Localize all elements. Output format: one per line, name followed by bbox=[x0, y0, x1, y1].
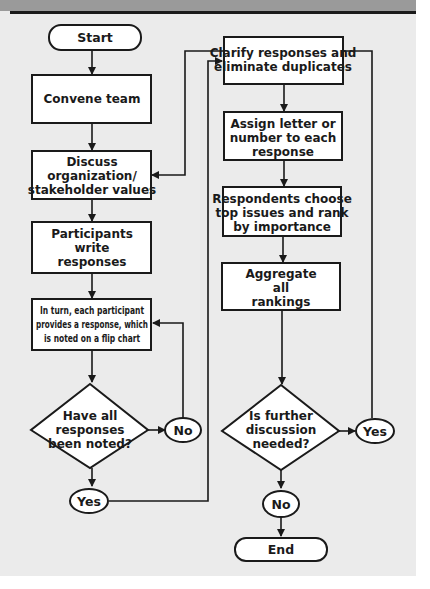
d1-no-label: No bbox=[173, 423, 192, 438]
rank-line-3: by importance bbox=[233, 220, 331, 234]
inturn-line-3: is noted on a flip chart bbox=[44, 332, 140, 345]
decision1-line-2: responses bbox=[56, 423, 125, 437]
node-convene: Convene team bbox=[32, 75, 151, 123]
decision1-line-1: Have all bbox=[63, 409, 118, 423]
node-end: End bbox=[235, 538, 327, 561]
clarify-line-1: Clarify responses and bbox=[210, 46, 357, 60]
discuss-line-2: organization/ bbox=[47, 169, 137, 183]
discuss-line-3: stakeholder values bbox=[28, 183, 156, 197]
node-aggregate: Aggregate all rankings bbox=[222, 263, 340, 310]
d1-yes-label: Yes bbox=[76, 494, 101, 509]
write-line-2: write bbox=[75, 241, 110, 255]
node-d2-yes: Yes bbox=[356, 419, 394, 443]
assign-line-1: Assign letter or bbox=[230, 117, 335, 131]
node-inturn: In turn, each participant provides a res… bbox=[32, 299, 151, 350]
inturn-line-1: In turn, each participant bbox=[40, 304, 144, 317]
d2-yes-label: Yes bbox=[362, 424, 387, 439]
node-rank: Respondents choose top issues and rank b… bbox=[212, 187, 352, 236]
assign-line-3: response bbox=[252, 145, 314, 159]
aggregate-line-3: rankings bbox=[252, 295, 311, 309]
rank-line-2: top issues and rank bbox=[215, 206, 349, 220]
edge-no-inturn bbox=[153, 323, 183, 418]
decision2-line-1: Is further bbox=[249, 409, 313, 423]
node-decision1: Have all responses been noted? bbox=[31, 384, 148, 468]
aggregate-line-2: all bbox=[273, 281, 289, 295]
node-decision2: Is further discussion needed? bbox=[222, 385, 339, 470]
node-assign: Assign letter or number to each response bbox=[224, 112, 342, 160]
start-label: Start bbox=[77, 30, 113, 45]
aggregate-line-1: Aggregate bbox=[245, 267, 316, 281]
node-clarify: Clarify responses and eliminate duplicat… bbox=[210, 37, 357, 84]
write-line-1: Participants bbox=[51, 227, 133, 241]
flowchart: Start Convene team Discuss organization/… bbox=[0, 0, 430, 589]
decision1-line-3: been noted? bbox=[48, 437, 132, 451]
decision2-line-3: needed? bbox=[252, 437, 309, 451]
end-label: End bbox=[268, 542, 294, 557]
d2-no-label: No bbox=[271, 497, 290, 512]
inturn-line-2: provides a response, which bbox=[36, 318, 148, 331]
node-d1-yes: Yes bbox=[70, 489, 108, 513]
node-d1-no: No bbox=[165, 418, 201, 442]
node-write: Participants write responses bbox=[32, 222, 151, 273]
write-line-3: responses bbox=[58, 255, 127, 269]
node-discuss: Discuss organization/ stakeholder values bbox=[28, 151, 156, 199]
node-start: Start bbox=[49, 25, 141, 50]
rank-line-1: Respondents choose bbox=[212, 192, 352, 206]
node-d2-no: No bbox=[263, 491, 299, 517]
discuss-line-1: Discuss bbox=[66, 155, 117, 169]
clarify-line-2: eliminate duplicates bbox=[214, 60, 352, 74]
assign-line-2: number to each bbox=[230, 131, 336, 145]
decision2-line-2: discussion bbox=[246, 423, 317, 437]
convene-label: Convene team bbox=[44, 92, 141, 106]
